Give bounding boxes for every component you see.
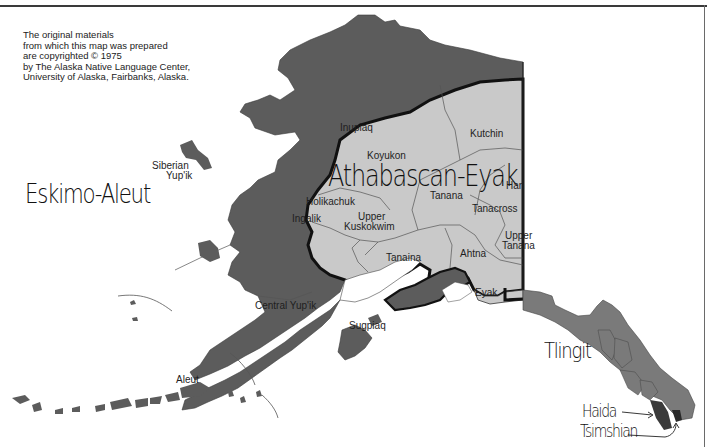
label-eyak: Eyak [475, 287, 497, 298]
label-siberian-yupik-line2: Yup'ik [166, 170, 192, 181]
family-label-tlingit: Tlingit [544, 338, 591, 363]
pribilof-islands [130, 300, 138, 321]
copyright-line-5: University of Alaska, Fairbanks, Alaska. [23, 71, 189, 82]
copyright-notice: The original materials from which this m… [23, 30, 190, 83]
label-koyukon: Koyukon [367, 150, 406, 161]
copyright-line-1: The original materials [23, 29, 114, 40]
label-tanana: Tanana [430, 190, 463, 201]
label-ingalik: Ingalik [292, 213, 321, 224]
label-sugpiaq: Sugpiaq [349, 320, 386, 331]
label-tanaina: Tanaina [386, 252, 421, 263]
family-label-tsimshian: Tsimshian [580, 421, 637, 441]
nunivak-island [198, 240, 220, 262]
copyright-line-2: from which this map was prepared [23, 40, 168, 51]
label-inupiaq: Inupiaq [340, 122, 373, 133]
family-label-athabascan-eyak: Athabascan-Eyak [328, 158, 518, 193]
family-label-eskimo-aleut: Eskimo-Aleut [25, 179, 150, 209]
label-kutchin: Kutchin [470, 128, 503, 139]
label-upper-kuskokwim-line2: Kuskokwim [344, 221, 395, 232]
label-aleut: Aleut [176, 374, 199, 385]
label-central-yupik: Central Yup'ik [255, 300, 316, 311]
copyright-line-3: are copyrighted © 1975 [23, 50, 122, 61]
label-han: Han [506, 180, 524, 191]
label-upper-tanana-line2: Tanana [502, 240, 535, 251]
label-ahtna: Ahtna [460, 248, 486, 259]
map-frame: The original materials from which this m… [0, 0, 707, 447]
label-holikachuk: Holikachuk [306, 196, 355, 207]
label-tanacross: Tanacross [472, 203, 518, 214]
copyright-line-4: by The Alaska Native Language Center, [23, 61, 190, 72]
family-label-haida: Haida [582, 401, 616, 421]
